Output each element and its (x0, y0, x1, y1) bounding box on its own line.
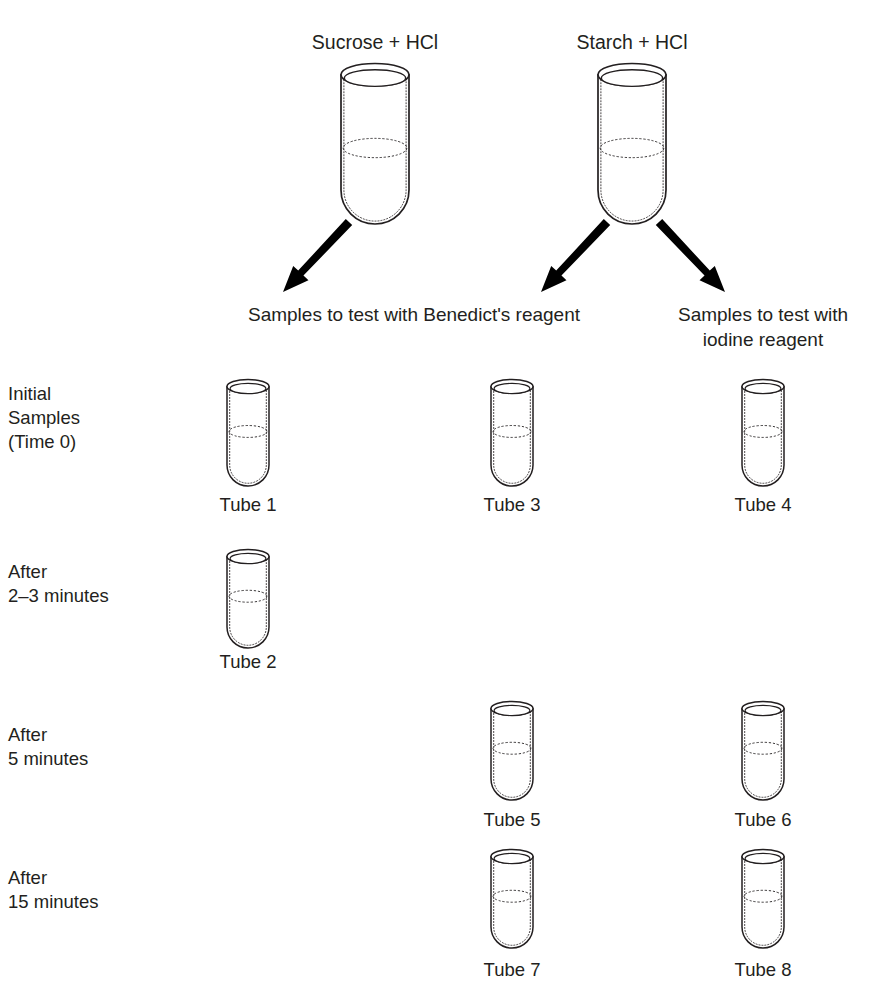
tube-1 (227, 380, 269, 487)
row-label-initial-samples-line-3: (Time 0) (8, 430, 80, 454)
iodine-reagent-label: Samples to test withiodine reagent (678, 303, 848, 352)
tube-3 (491, 380, 533, 487)
sucrose-heading: Sucrose + HCl (312, 30, 438, 55)
tube-4-glass-fill (742, 386, 784, 486)
starch-tube-rim-inner (601, 70, 662, 87)
tube-4-rim-inner (745, 383, 781, 393)
row-label-after-15-minutes-line-2: 15 minutes (8, 890, 99, 914)
tube-5 (491, 702, 533, 801)
tube-6-rim-inner (745, 705, 781, 715)
sucrose-tube-rim-inner (344, 70, 405, 87)
tube-3-rim-inner (494, 383, 530, 393)
row-label-initial-samples-line-1: Initial (8, 382, 80, 406)
tube-5-caption: Tube 5 (484, 808, 541, 832)
tube-7-caption: Tube 7 (484, 958, 541, 982)
tube-1-caption: Tube 1 (220, 493, 277, 517)
tube-7 (491, 850, 533, 949)
row-label-after-5-minutes: After5 minutes (8, 723, 88, 771)
tube-8 (742, 850, 784, 949)
tube-8-caption: Tube 8 (735, 958, 792, 982)
benedicts-reagent-label: Samples to test with Benedict's reagent (248, 303, 580, 328)
iodine-reagent-label-line-1: Samples to test with (678, 303, 848, 328)
row-label-after-5-minutes-line-2: 5 minutes (8, 747, 88, 771)
starch-tube (598, 64, 666, 225)
tube-2-caption: Tube 2 (220, 650, 277, 674)
row-label-after-2-3-minutes-line-2: 2–3 minutes (8, 584, 109, 608)
row-label-after-15-minutes: After15 minutes (8, 866, 99, 914)
tube-7-rim-inner (494, 853, 530, 863)
starch-heading: Starch + HCl (576, 30, 687, 55)
row-label-after-5-minutes-line-1: After (8, 723, 88, 747)
tube-4 (742, 380, 784, 487)
row-label-after-15-minutes-line-1: After (8, 866, 99, 890)
iodine-reagent-label-line-2: iodine reagent (678, 328, 848, 353)
benedicts-reagent-label-line-1: Samples to test with Benedict's reagent (248, 303, 580, 328)
tube-1-glass-fill (227, 386, 269, 486)
row-label-after-2-3-minutes: After2–3 minutes (8, 560, 109, 608)
tube-6 (742, 702, 784, 801)
tube-1-rim-inner (230, 383, 266, 393)
tube-3-glass-fill (491, 386, 533, 486)
tube-3-caption: Tube 3 (484, 493, 541, 517)
tube-4-caption: Tube 4 (735, 493, 792, 517)
tube-2 (227, 550, 269, 649)
row-label-initial-samples: InitialSamples(Time 0) (8, 382, 80, 454)
row-label-after-2-3-minutes-line-1: After (8, 560, 109, 584)
sucrose-tube (341, 64, 409, 225)
starch-tube-glass-fill (598, 75, 666, 224)
tube-2-rim-inner (230, 553, 266, 563)
row-label-initial-samples-line-2: Samples (8, 406, 80, 430)
tube-6-caption: Tube 6 (735, 808, 792, 832)
tube-5-rim-inner (494, 705, 530, 715)
tube-8-rim-inner (745, 853, 781, 863)
sucrose-tube-glass-fill (341, 75, 409, 224)
